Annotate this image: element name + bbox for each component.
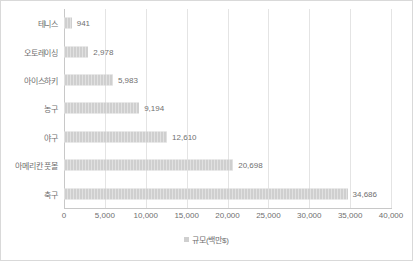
bar — [64, 103, 139, 114]
legend-label: 규모(백만$) — [192, 234, 228, 245]
bar — [64, 131, 167, 142]
bar — [64, 75, 113, 86]
x-tick-label: 20,000 — [215, 211, 239, 220]
category-label: 테니스 — [38, 18, 58, 29]
bar-value-label: 12,610 — [172, 132, 196, 141]
category-label: 야구 — [44, 131, 58, 142]
bar-row: 축구34,686 — [64, 180, 391, 208]
x-tick-label: 30,000 — [297, 211, 321, 220]
category-label: 아이스하키 — [24, 75, 58, 86]
category-label: 아메리칸 풋볼 — [15, 160, 58, 171]
bar-row: 아이스하키5,983 — [64, 66, 391, 94]
chart-legend: 규모(백만$) — [1, 234, 412, 245]
bar — [64, 160, 233, 171]
bar — [64, 188, 348, 199]
legend-swatch-icon — [184, 237, 189, 242]
x-tick-label: 15,000 — [174, 211, 198, 220]
x-tick-label: 35,000 — [338, 211, 362, 220]
category-label: 축구 — [44, 188, 58, 199]
bar-value-label: 5,983 — [118, 76, 138, 85]
x-tick-label: 10,000 — [134, 211, 158, 220]
bar-chart-figure: 테니스941오토레이싱2,978아이스하키5,983농구9,194야구12,61… — [0, 0, 413, 261]
x-axis-tick-labels: 05,00010,00015,00020,00025,00030,00035,0… — [64, 211, 391, 225]
bar-value-label: 20,698 — [238, 161, 262, 170]
x-tick-label: 40,000 — [379, 211, 403, 220]
bar-row: 농구9,194 — [64, 94, 391, 122]
bar-row: 야구12,610 — [64, 123, 391, 151]
x-tick-label: 25,000 — [256, 211, 280, 220]
category-label: 농구 — [44, 103, 58, 114]
gridline — [391, 9, 392, 208]
x-axis-line — [64, 208, 392, 209]
bar — [64, 46, 88, 57]
bar-value-label: 2,978 — [93, 47, 113, 56]
category-label: 오토레이싱 — [24, 46, 58, 57]
bar — [64, 18, 72, 29]
x-tick-label: 5,000 — [95, 211, 115, 220]
bar-row: 오토레이싱2,978 — [64, 37, 391, 65]
x-tick-label: 0 — [62, 211, 66, 220]
plot-area: 테니스941오토레이싱2,978아이스하키5,983농구9,194야구12,61… — [64, 9, 391, 208]
bar-value-label: 941 — [77, 19, 90, 28]
bar-row: 아메리칸 풋볼20,698 — [64, 151, 391, 179]
bar-value-label: 34,686 — [353, 189, 377, 198]
bar-value-label: 9,194 — [144, 104, 164, 113]
bar-row: 테니스941 — [64, 9, 391, 37]
